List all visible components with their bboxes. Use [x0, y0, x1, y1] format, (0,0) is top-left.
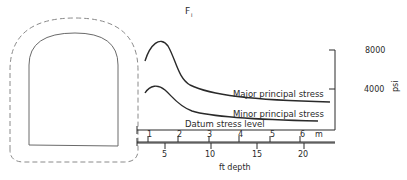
major-stress-label: Major principal stress	[233, 89, 324, 99]
stress-tick-8000: 8000	[365, 46, 385, 55]
feet-tick-5: 5	[162, 150, 167, 159]
feet-tick-10: 10	[205, 150, 215, 159]
stress-diagram: 8000 4000 psi F I Major principal stress…	[0, 0, 407, 180]
metre-axis-unit: m	[315, 130, 323, 139]
feet-tick-20: 20	[298, 150, 308, 159]
metre-tick-4: 4	[238, 130, 243, 139]
stress-tick-4000: 4000	[364, 85, 384, 94]
metre-tick-5: 5	[270, 130, 275, 139]
tunnel-opening	[29, 33, 118, 146]
datum-stress-label: Datum stress level	[185, 119, 265, 129]
feet-tick-15: 15	[252, 150, 262, 159]
metre-tick-6: 6	[300, 130, 305, 139]
metre-tick-2: 2	[177, 130, 182, 139]
feet-axis-caption: ft depth	[219, 163, 251, 172]
minor-stress-label: Minor principal stress	[233, 109, 325, 119]
figure-title: F	[185, 6, 190, 16]
figure-title-subscript: I	[191, 12, 192, 18]
stress-axis-unit: psi	[391, 81, 400, 92]
metre-tick-3: 3	[207, 130, 212, 139]
metre-tick-1: 1	[147, 130, 152, 139]
